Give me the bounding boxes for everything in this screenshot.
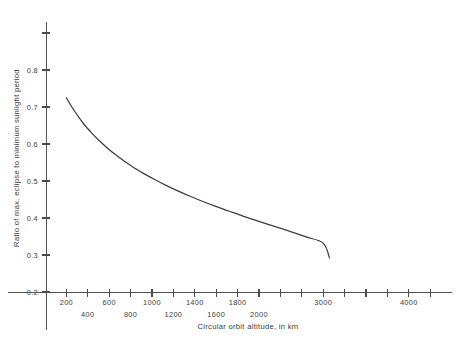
x-tick-label: 600 xyxy=(103,298,116,307)
data-curve xyxy=(66,98,329,258)
y-axis-title: Ratio of max. eclipse to minimum sunligh… xyxy=(12,69,21,247)
x-tick-label: 1800 xyxy=(229,298,247,307)
y-axis-tick-labels: 0.8 0.7 0.6 0.5 0.4 0.3 0.2 xyxy=(27,66,38,297)
x-tick-label: 2000 xyxy=(250,310,268,319)
x-tick-label: 800 xyxy=(124,310,137,319)
y-tick-label: 0.2 xyxy=(27,288,38,297)
x-tick-label: 200 xyxy=(60,298,73,307)
x-axis-tick-labels-upper: 200 600 1000 1400 1800 3000 4000 xyxy=(60,298,418,307)
x-tick-label: 3000 xyxy=(314,298,332,307)
chart-canvas: 0.8 0.7 0.6 0.5 0.4 0.3 0.2 xyxy=(0,0,459,344)
x-tick-label: 1600 xyxy=(207,310,225,319)
x-axis-title: Circular orbit altitude, in km xyxy=(198,322,299,331)
cut-off-caption-text xyxy=(0,333,459,344)
x-tick-label: 1200 xyxy=(164,310,182,319)
y-tick-label: 0.8 xyxy=(27,66,38,75)
chart-figure: 0.8 0.7 0.6 0.5 0.4 0.3 0.2 xyxy=(0,0,459,344)
x-tick-label: 4000 xyxy=(400,298,418,307)
y-tick-label: 0.6 xyxy=(27,140,38,149)
x-tick-label: 1400 xyxy=(186,298,204,307)
y-tick-label: 0.5 xyxy=(27,177,38,186)
y-tick-label: 0.7 xyxy=(27,103,38,112)
x-tick-label: 400 xyxy=(81,310,94,319)
y-tick-label: 0.4 xyxy=(27,214,38,223)
y-tick-label: 0.3 xyxy=(27,251,38,260)
x-tick-label: 1000 xyxy=(143,298,161,307)
x-axis-tick-labels-lower: 400 800 1200 1600 2000 xyxy=(81,310,268,319)
